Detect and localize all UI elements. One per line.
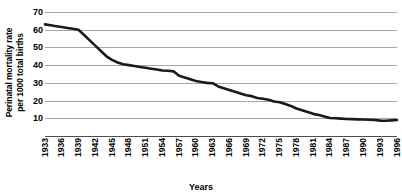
x-tick-label-1960: 1960: [191, 138, 200, 157]
x-tick-label-1936: 1936: [57, 138, 66, 157]
x-tick-label-1984: 1984: [325, 138, 334, 157]
x-tick-label-1954: 1954: [158, 138, 167, 157]
x-tick-label-1972: 1972: [258, 138, 267, 157]
y-tick-label-60: 60: [21, 25, 43, 34]
x-tick-label-1987: 1987: [342, 138, 351, 157]
x-tick-label-1939: 1939: [74, 138, 83, 157]
y-tick-label-50: 50: [21, 43, 43, 52]
x-tick-label-1951: 1951: [141, 138, 150, 157]
x-tick-label-1993: 1993: [376, 138, 385, 157]
y-tick-label-30: 30: [21, 78, 43, 87]
x-tick-label-1969: 1969: [242, 138, 251, 157]
x-tick-label-1948: 1948: [124, 138, 133, 157]
perinatal-mortality-line-chart: Perinatal mortality rate per 1000 total …: [0, 0, 402, 196]
y-tick-label-40: 40: [21, 61, 43, 70]
y-tick-label-20: 20: [21, 96, 43, 105]
y-tick-label-70: 70: [21, 8, 43, 17]
x-tick-label-1945: 1945: [108, 138, 117, 157]
x-tick-label-1996: 1996: [393, 138, 402, 157]
y-axis-tick-labels: 10203040506070: [19, 0, 43, 196]
x-tick-label-1981: 1981: [309, 138, 318, 157]
x-tick-label-1978: 1978: [292, 138, 301, 157]
x-axis-line: [45, 136, 397, 137]
x-tick-label-1957: 1957: [175, 138, 184, 157]
y-tick-label-10: 10: [21, 114, 43, 123]
plot-area: [45, 12, 397, 136]
x-tick-label-1933: 1933: [41, 138, 50, 157]
x-tick-label-1966: 1966: [225, 138, 234, 157]
x-tick-label-1942: 1942: [91, 138, 100, 157]
x-axis-title: Years: [0, 182, 402, 192]
x-tick-label-1990: 1990: [359, 138, 368, 157]
x-axis-tick-labels: 1933193619391942194519481951195419571960…: [45, 138, 397, 178]
x-tick-label-1963: 1963: [208, 138, 217, 157]
series-line: [45, 12, 397, 136]
x-tick-label-1975: 1975: [275, 138, 284, 157]
